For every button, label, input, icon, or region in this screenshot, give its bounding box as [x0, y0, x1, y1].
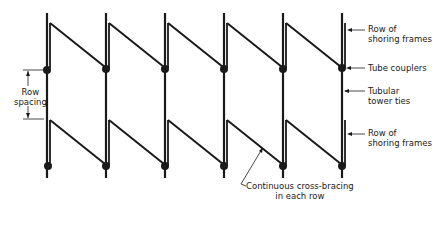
row-of-shoring-frames-top-label: Row of shoring frames [368, 24, 432, 44]
row-of-shoring-frames-bottom-label: Row of shoring frames [368, 128, 432, 148]
cross-bracing-bottom [50, 120, 341, 164]
tube-couplers [43, 64, 346, 170]
row-spacing-line1: Row [14, 87, 47, 97]
row-spacing-line2: spacing [14, 97, 47, 107]
label-line: Tube couplers [368, 63, 427, 73]
label-line: Row of [368, 128, 432, 138]
tube-couplers-label: Tube couplers [368, 63, 427, 73]
label-line: Tubular [368, 86, 410, 96]
label-line: tower ties [368, 96, 410, 106]
label-line: in each row [246, 191, 354, 201]
label-line: shoring frames [368, 34, 432, 44]
label-line: Row of [368, 24, 432, 34]
label-line: Continuous cross-bracing [246, 181, 354, 191]
label-line: shoring frames [368, 138, 432, 148]
tubular-tower-ties-label: Tubular tower ties [368, 86, 410, 106]
cross-bracing-top [50, 23, 341, 67]
row-spacing-label: Row spacing [14, 87, 47, 107]
continuous-bracing-label: Continuous cross-bracing in each row [246, 181, 354, 201]
leader-lines [241, 30, 365, 186]
